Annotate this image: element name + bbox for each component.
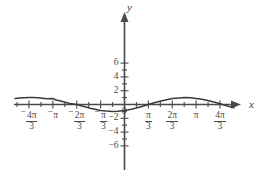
y-axis-arrowhead	[121, 12, 129, 22]
fraction-numerator: 2π	[166, 111, 178, 121]
fraction-numerator: 2π	[74, 111, 86, 121]
fraction-denominator: 3	[214, 122, 226, 132]
minus-sign: −	[68, 108, 73, 118]
x-tick-label: 4π3	[205, 111, 235, 132]
y-tick-label: −2	[97, 112, 119, 122]
fraction: 2π3	[74, 111, 86, 132]
y-tick-label: 6	[97, 57, 119, 67]
graph-figure: x y −4π3−π−2π3−π3π32π3π4π3 6420−2−4−6	[0, 0, 266, 177]
minus-sign: −	[48, 108, 53, 118]
fraction-denominator: 3	[26, 122, 38, 132]
tick-value-text: π	[53, 111, 58, 121]
fraction-denominator: 3	[166, 122, 178, 132]
y-tick-label: 4	[97, 71, 119, 81]
tick-value-text: π	[194, 111, 199, 121]
fraction-numerator: 4π	[214, 111, 226, 121]
minus-sign: −	[21, 108, 26, 118]
y-tick-label: −6	[97, 140, 119, 150]
fraction-numerator: 4π	[26, 111, 38, 121]
fraction: 4π3	[214, 111, 226, 132]
fraction: 4π3	[26, 111, 38, 132]
fraction-denominator: 3	[145, 122, 152, 132]
x-axis-name-label: x	[249, 98, 254, 110]
coordinate-plane	[0, 0, 266, 177]
fraction: 2π3	[166, 111, 178, 132]
fraction-denominator: 3	[74, 122, 86, 132]
y-axis-name-label: y	[127, 1, 132, 13]
y-tick-label: −4	[97, 126, 119, 136]
fraction-numerator: π	[145, 111, 152, 121]
fraction: π3	[145, 111, 152, 132]
y-tick-label: 2	[97, 85, 119, 95]
